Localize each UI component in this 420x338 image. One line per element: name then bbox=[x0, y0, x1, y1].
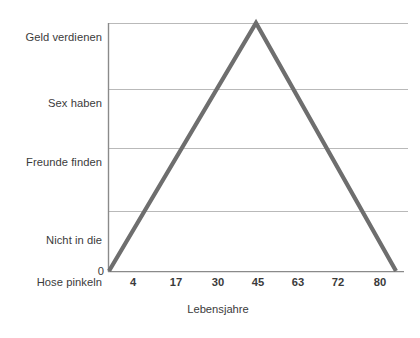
data-series-lebensprioritaet bbox=[109, 23, 396, 271]
x-axis-tick-45: 45 bbox=[244, 276, 272, 288]
y-axis-label-sex-haben: Sex haben bbox=[0, 83, 102, 124]
x-axis-tick-17: 17 bbox=[162, 276, 190, 288]
x-axis-title: Lebensjahre bbox=[158, 303, 278, 315]
y-axis-label-text: Sex haben bbox=[48, 97, 102, 109]
x-axis-tick-80: 80 bbox=[366, 276, 394, 288]
x-axis-tick-4: 4 bbox=[119, 276, 147, 288]
series-line bbox=[109, 23, 396, 271]
gridlines bbox=[108, 24, 408, 212]
chart-container: Geld verdienen Sex haben Freunde finden … bbox=[0, 0, 420, 338]
x-axis-tick-72: 72 bbox=[324, 276, 352, 288]
x-axis-tick-63: 63 bbox=[284, 276, 312, 288]
y-axis-label-text: Geld verdienen bbox=[25, 31, 102, 43]
axis-lines bbox=[108, 23, 404, 272]
y-axis-label-freunde-finden: Freunde finden bbox=[0, 142, 102, 183]
y-axis-label-text-line2: Hose pinkeln bbox=[0, 275, 102, 289]
y-axis-label-text-line1: Nicht in die bbox=[0, 233, 102, 247]
y-axis-label-text: Freunde finden bbox=[26, 156, 102, 168]
y-axis-label-geld-verdienen: Geld verdienen bbox=[0, 17, 102, 58]
y-axis-label-nicht-in-die-hose-pinkeln: Nicht in die Hose pinkeln bbox=[0, 205, 102, 317]
y-axis-origin-label: 0 bbox=[90, 265, 104, 277]
x-axis-tick-30: 30 bbox=[204, 276, 232, 288]
